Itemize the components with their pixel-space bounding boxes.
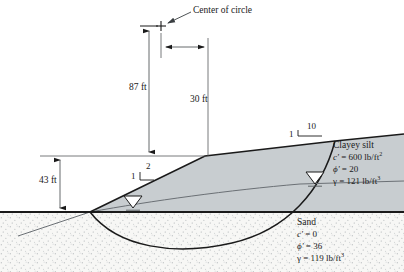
phi-symbol: ϕ'	[333, 164, 340, 174]
phi-value: = 20	[342, 164, 358, 174]
gamma-symbol: γ	[297, 253, 301, 263]
slope-ratio-run-10: 10	[307, 121, 316, 131]
gamma-value: = 121 lb/ft	[339, 176, 377, 186]
phi-value: = 36	[306, 241, 322, 251]
gamma-exponent: 3	[341, 252, 344, 258]
cohesion-symbol: c'	[333, 152, 339, 162]
phi-symbol: ϕ'	[297, 241, 304, 251]
gamma-exponent: 3	[377, 175, 380, 181]
slope-ratio-marker-1-2	[140, 172, 154, 180]
soil-cohesion-clayey-silt: c' = 600 lb/ft2	[333, 151, 382, 164]
gamma-value: = 119 lb/ft	[303, 253, 341, 263]
soil-name-sand: Sand	[297, 216, 344, 228]
soil-friction-angle-clayey-silt: ϕ' = 20	[333, 164, 382, 176]
slope-ratio-rise-1-10: 1	[289, 129, 294, 139]
soil-cohesion-sand: c' = 0	[297, 228, 344, 241]
soil-properties-clayey-silt: Clayey silt c' = 600 lb/ft2 ϕ' = 20 γ = …	[333, 139, 382, 188]
soil-name-clayey-silt: Clayey silt	[333, 139, 382, 151]
soil-unit-weight-sand: γ = 119 lb/ft3	[297, 252, 344, 265]
soil-properties-sand: Sand c' = 0 ϕ' = 36 γ = 119 lb/ft3	[297, 216, 344, 265]
center-of-circle-leader	[168, 12, 191, 23]
slope-ratio-run-2: 2	[146, 161, 151, 171]
soil-friction-angle-sand: ϕ' = 36	[297, 241, 344, 253]
cohesion-exponent: 2	[379, 151, 382, 157]
dimension-label-43ft: 43 ft	[39, 175, 57, 186]
slope-ratio-rise-1-2: 1	[131, 171, 136, 181]
center-of-circle-label: Center of circle	[193, 5, 252, 16]
cohesion-value: = 0	[305, 229, 317, 239]
cohesion-value: = 600 lb/ft	[341, 152, 379, 162]
dimension-label-87ft: 87 ft	[129, 82, 147, 93]
soil-unit-weight-clayey-silt: γ = 121 lb/ft3	[333, 175, 382, 188]
cohesion-symbol: c'	[297, 229, 303, 239]
slope-stability-figure: Center of circle 87 ft 30 ft 43 ft 1 2 1…	[0, 0, 404, 272]
dimension-label-30ft: 30 ft	[190, 94, 208, 105]
gamma-symbol: γ	[333, 176, 337, 186]
